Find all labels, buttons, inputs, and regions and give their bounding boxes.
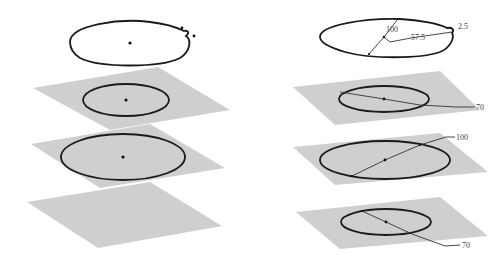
dim-top-small: 2.5 — [458, 22, 468, 31]
dim-plane3-diameter: 70 — [462, 241, 470, 250]
right-plane-1: 70 — [293, 71, 484, 125]
dim-top-offset: 57.5 — [411, 33, 425, 42]
left-panel — [27, 21, 230, 248]
right-plane-3: 70 — [296, 197, 488, 250]
dim-plane1-diameter: 70 — [476, 103, 484, 112]
right-top-curve: 100 57.5 2.5 — [320, 18, 468, 57]
right-panel: 100 57.5 2.5 70 100 — [293, 18, 488, 250]
dim-top-diameter: 100 — [386, 25, 398, 34]
left-plane-2 — [31, 124, 225, 188]
right-plane-2: 100 — [293, 133, 488, 185]
left-top-curve — [70, 21, 195, 66]
dim-plane2-diameter: 100 — [456, 133, 468, 142]
left-plane-3 — [27, 182, 222, 248]
diagram-canvas: 100 57.5 2.5 70 100 — [0, 0, 501, 265]
left-plane-1 — [33, 67, 230, 130]
